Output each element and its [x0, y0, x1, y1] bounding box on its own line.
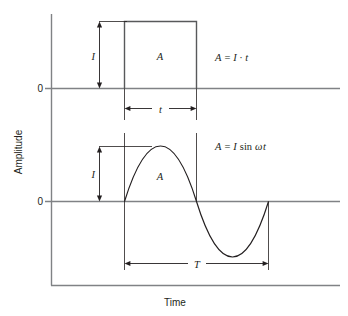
pulse-equation-equals: = — [224, 52, 230, 63]
lower-zero-tick-label: 0 — [37, 196, 43, 207]
pulse-equation-operator: · — [239, 52, 243, 63]
upper-zero-tick-label: 0 — [37, 83, 43, 94]
pulse-equation-lhs: A — [214, 52, 222, 63]
pulse-equation-amplitude: I — [232, 52, 237, 63]
x-axis-title: Time — [164, 297, 186, 308]
pulse-area-label: A — [156, 51, 164, 62]
sine-equation-lhs: A — [214, 141, 222, 152]
sine-amplitude-label: I — [91, 169, 96, 180]
sine-equation-equals: = — [224, 141, 230, 152]
pulse-amplitude-label: I — [91, 51, 96, 62]
sine-equation-function: sin — [240, 141, 253, 152]
sine-equation-omega: ω — [255, 141, 262, 152]
figure-container: I A A=I·t t 0 I A — [0, 0, 348, 316]
y-axis-title: Amplitude — [13, 129, 24, 174]
sine-area-label: A — [156, 171, 164, 182]
sine-equation-amplitude: I — [232, 141, 237, 152]
waveform-comparison-diagram: I A A=I·t t 0 I A — [0, 0, 348, 316]
